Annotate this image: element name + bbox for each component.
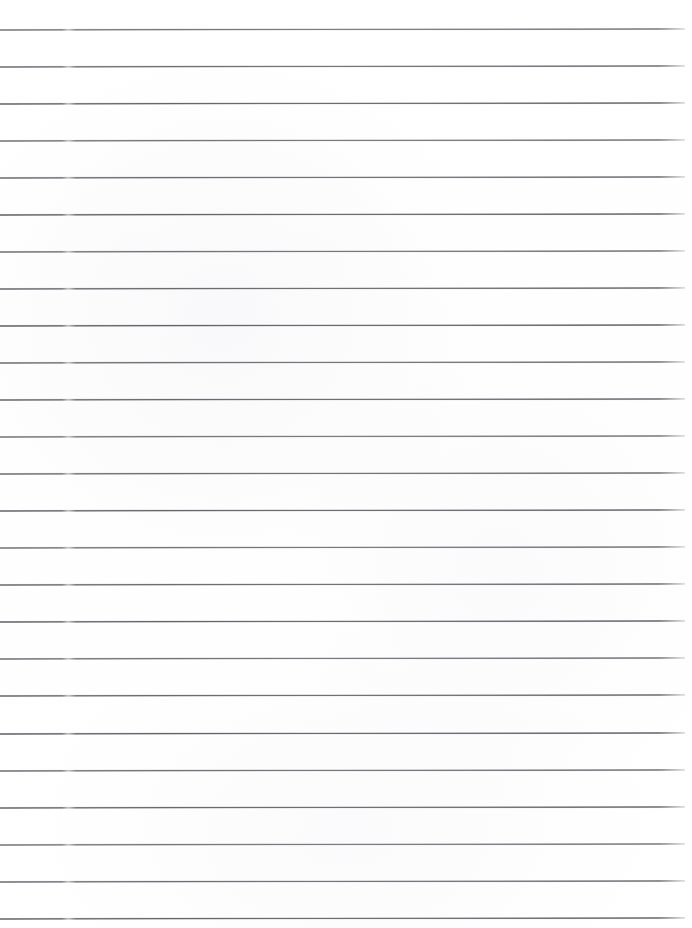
rule-line-gutter-break	[62, 843, 76, 845]
rule-line-tail-fade	[659, 880, 685, 882]
rule-line-gutter-break	[62, 214, 76, 216]
rule-line-gutter-break	[62, 584, 76, 586]
rule-line-stroke	[0, 139, 685, 142]
rule-line	[0, 806, 685, 809]
rule-line-gutter-break	[62, 362, 76, 364]
rule-line	[0, 65, 685, 68]
rule-line-tail-fade	[659, 102, 685, 104]
rule-line-tail-fade	[659, 361, 685, 363]
rule-line-gutter-break	[62, 436, 76, 438]
rule-line-gutter-break	[62, 695, 76, 697]
rule-line-stroke	[0, 213, 685, 216]
rule-line-stroke	[0, 472, 685, 475]
rule-line-gutter-break	[62, 65, 76, 67]
paper-sheet	[0, 0, 692, 928]
rule-line-tail-fade	[659, 176, 685, 178]
rule-line-stroke	[0, 509, 685, 512]
rule-line	[0, 324, 685, 327]
rule-line-tail-fade	[659, 398, 685, 400]
ruled-line-group	[0, 0, 692, 928]
rule-line-stroke	[0, 176, 685, 179]
rule-line-gutter-break	[62, 102, 76, 104]
rule-line-stroke	[0, 65, 685, 68]
rule-line-tail-fade	[659, 657, 685, 659]
rule-line-tail-fade	[659, 27, 685, 29]
rule-line	[0, 546, 685, 549]
rule-line-stroke	[0, 768, 685, 771]
rule-line-tail-fade	[659, 287, 685, 289]
rule-line-stroke	[0, 583, 685, 586]
rule-line-tail-fade	[659, 694, 685, 696]
rule-line-stroke	[0, 27, 685, 30]
rule-line-stroke	[0, 620, 685, 623]
rule-line	[0, 398, 685, 401]
rule-line-gutter-break	[62, 288, 76, 290]
rule-line	[0, 27, 685, 30]
rule-line-gutter-break	[62, 28, 76, 30]
rule-line-gutter-break	[62, 658, 76, 660]
rule-line-tail-fade	[659, 435, 685, 437]
rule-line-tail-fade	[659, 620, 685, 622]
rule-line	[0, 472, 685, 475]
rule-line-stroke	[0, 880, 685, 883]
rule-line-gutter-break	[62, 547, 76, 549]
rule-line	[0, 583, 685, 586]
rule-line-stroke	[0, 657, 685, 660]
rule-line-gutter-break	[62, 732, 76, 734]
rule-line-gutter-break	[62, 325, 76, 327]
rule-line-gutter-break	[62, 473, 76, 475]
rule-line-stroke	[0, 398, 685, 401]
rule-line	[0, 102, 685, 105]
rule-line-stroke	[0, 102, 685, 105]
rule-line	[0, 843, 685, 846]
rule-line-stroke	[0, 806, 685, 809]
rule-line-tail-fade	[659, 139, 685, 141]
rule-line-tail-fade	[659, 731, 685, 733]
rule-line-gutter-break	[62, 621, 76, 623]
rule-line-tail-fade	[659, 917, 685, 919]
rule-line-stroke	[0, 435, 685, 438]
rule-line-gutter-break	[62, 769, 76, 771]
rule-line	[0, 694, 685, 697]
rule-line-stroke	[0, 287, 685, 290]
rule-line	[0, 731, 685, 734]
rule-line-tail-fade	[659, 65, 685, 67]
rule-line-gutter-break	[62, 510, 76, 512]
rule-line-stroke	[0, 546, 685, 549]
rule-line	[0, 880, 685, 883]
rule-line-gutter-break	[62, 140, 76, 142]
rule-line-tail-fade	[659, 583, 685, 585]
rule-line-stroke	[0, 917, 685, 920]
rule-line-stroke	[0, 694, 685, 697]
rule-line-tail-fade	[659, 806, 685, 808]
rule-line	[0, 250, 685, 253]
rule-line	[0, 139, 685, 142]
rule-line-tail-fade	[659, 213, 685, 215]
rule-line-stroke	[0, 324, 685, 327]
rule-line-gutter-break	[62, 918, 76, 920]
rule-line-stroke	[0, 843, 685, 846]
rule-line-gutter-break	[62, 806, 76, 808]
rule-line	[0, 657, 685, 660]
rule-line	[0, 361, 685, 364]
rule-line	[0, 435, 685, 438]
rule-line-tail-fade	[659, 768, 685, 770]
rule-line	[0, 213, 685, 216]
rule-line	[0, 509, 685, 512]
rule-line-gutter-break	[62, 881, 76, 883]
rule-line	[0, 620, 685, 623]
rule-line-stroke	[0, 250, 685, 253]
rule-line	[0, 917, 685, 920]
rule-line-stroke	[0, 731, 685, 734]
rule-line	[0, 287, 685, 290]
rule-line-tail-fade	[659, 250, 685, 252]
rule-line-tail-fade	[659, 324, 685, 326]
rule-line-gutter-break	[62, 251, 76, 253]
rule-line-tail-fade	[659, 472, 685, 474]
rule-line-stroke	[0, 361, 685, 364]
rule-line	[0, 176, 685, 179]
rule-line-tail-fade	[659, 546, 685, 548]
rule-line	[0, 768, 685, 771]
rule-line-gutter-break	[62, 177, 76, 179]
rule-line-tail-fade	[659, 843, 685, 845]
